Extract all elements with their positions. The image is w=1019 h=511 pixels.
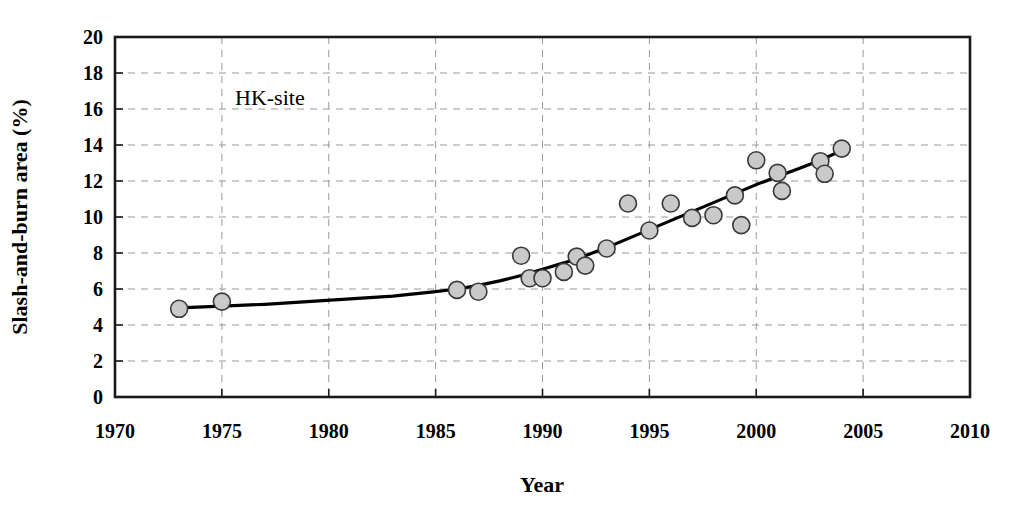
- data-point-marker: [577, 257, 594, 274]
- chart-container: 0246810121416182019701975198019851990199…: [0, 0, 1019, 511]
- x-axis-tick-label: 1970: [95, 420, 135, 442]
- data-point-marker: [726, 187, 743, 204]
- data-point-marker: [470, 283, 487, 300]
- data-point-marker: [620, 195, 637, 212]
- x-axis-tick-label: 2010: [950, 420, 990, 442]
- y-axis-tick-label: 6: [93, 278, 103, 300]
- y-axis-tick-label: 0: [93, 386, 103, 408]
- data-point-marker: [816, 165, 833, 182]
- data-point-marker: [641, 222, 658, 239]
- data-point-marker: [513, 247, 530, 264]
- data-point-marker: [598, 240, 615, 257]
- y-axis-tick-label: 2: [93, 350, 103, 372]
- y-axis-tick-label: 12: [83, 170, 103, 192]
- y-axis-tick-label: 10: [83, 206, 103, 228]
- data-point-marker: [748, 152, 765, 169]
- y-axis-tick-label: 8: [93, 242, 103, 264]
- data-point-marker: [449, 281, 466, 298]
- x-axis-tick-label: 2000: [736, 420, 776, 442]
- data-point-marker: [705, 207, 722, 224]
- data-point-marker: [213, 293, 230, 310]
- x-axis-tick-label: 1990: [523, 420, 563, 442]
- x-axis-title: Year: [520, 472, 564, 497]
- data-point-marker: [773, 182, 790, 199]
- x-axis-tick-label: 1980: [309, 420, 349, 442]
- data-point-marker: [769, 164, 786, 181]
- y-axis-tick-label: 16: [83, 98, 103, 120]
- x-axis-tick-label: 1975: [202, 420, 242, 442]
- data-point-marker: [555, 263, 572, 280]
- slash-and-burn-scatter-chart: 0246810121416182019701975198019851990199…: [0, 0, 1019, 511]
- y-axis-tick-label: 14: [83, 134, 103, 156]
- data-point-marker: [534, 270, 551, 287]
- data-point-marker: [662, 195, 679, 212]
- x-axis-tick-label: 2005: [843, 420, 883, 442]
- data-point-marker: [171, 300, 188, 317]
- y-axis-tick-label: 18: [83, 62, 103, 84]
- y-axis-title: Slash-and-burn area (%): [7, 99, 32, 335]
- site-annotation-label: HK-site: [235, 85, 305, 110]
- x-axis-tick-label: 1995: [629, 420, 669, 442]
- data-point-marker: [684, 209, 701, 226]
- y-axis-tick-label: 20: [83, 26, 103, 48]
- x-axis-tick-label: 1985: [416, 420, 456, 442]
- data-point-marker: [833, 140, 850, 157]
- data-point-marker: [733, 217, 750, 234]
- y-axis-tick-label: 4: [93, 314, 103, 336]
